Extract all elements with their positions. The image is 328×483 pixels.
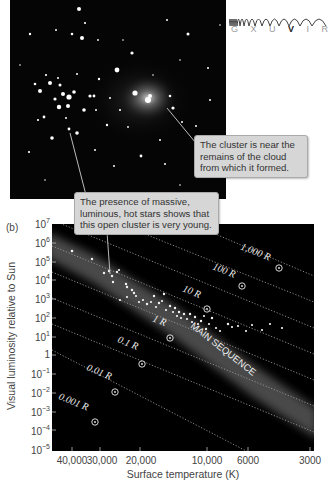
radius-label-0-01: 0.01 R	[85, 362, 113, 382]
main-sequence-band	[52, 232, 314, 439]
band-v-active: V	[288, 24, 294, 34]
hr-diagram-svg: 1,000 R 100 R 10 R 1 R 0.1 R 0.01 R 0.00…	[52, 224, 314, 451]
y-tick: 10−4	[16, 424, 50, 437]
y-tick: 10−1	[16, 367, 50, 380]
radius-label-1000: 1,000 R	[239, 241, 272, 263]
y-tick: 106	[16, 236, 50, 249]
band-r: R	[321, 24, 328, 34]
band-u: U	[269, 24, 276, 34]
x-tick: 10,000	[192, 455, 223, 466]
band-g: G	[231, 24, 238, 34]
x-tick: 3000	[299, 455, 321, 466]
y-tick: 107	[16, 217, 50, 230]
radius-label-0-001: 0.001 R	[57, 391, 90, 413]
radius-label-10: 10 R	[181, 283, 202, 300]
spectrum-band-letters: G X U V I R	[231, 24, 328, 34]
y-tick: 10−3	[16, 405, 50, 418]
callout-young-cluster: The presence of massive, luminous, hot s…	[74, 192, 219, 235]
x-tick: 20,000	[126, 455, 157, 466]
y-tick: 105	[16, 255, 50, 268]
y-tick: 103	[16, 292, 50, 305]
radius-label-100: 100 R	[211, 261, 237, 280]
y-tick: 104	[16, 273, 50, 286]
y-tick: 10−2	[16, 386, 50, 399]
y-tick: 10−5	[16, 443, 50, 456]
y-tick: 101	[16, 330, 50, 343]
x-tick: 30,000	[87, 455, 118, 466]
x-tick: 40,000	[57, 455, 88, 466]
x-axis-label: Surface temperature (K)	[52, 468, 314, 480]
y-tick: 102	[16, 311, 50, 324]
hr-diagram-plot: 1,000 R 100 R 10 R 1 R 0.1 R 0.01 R 0.00…	[52, 224, 314, 451]
callout-cloud-remains: The cluster is near the remains of the c…	[194, 135, 308, 178]
x-tick: 6000	[237, 455, 259, 466]
y-tick: 1	[16, 349, 50, 360]
band-x: X	[251, 24, 257, 34]
band-i: I	[306, 24, 309, 34]
radius-label-0-1: 0.1 R	[116, 334, 140, 352]
